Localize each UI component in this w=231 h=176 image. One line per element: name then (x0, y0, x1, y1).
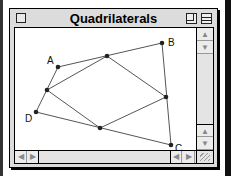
segment[interactable] (58, 43, 162, 67)
vertex-label: B (168, 37, 175, 48)
segment[interactable] (107, 56, 166, 97)
vertex-label: C (175, 143, 182, 150)
grow-box-icon[interactable] (196, 150, 213, 163)
quadrilaterals-window: Quadrilaterals ABCD ▲ ▼ ▲ ▼ ◀ ▶ ◀ ▶ (9, 8, 218, 168)
horizontal-scrollbar[interactable]: ◀ ▶ ◀ ▶ (15, 150, 196, 163)
point[interactable] (105, 54, 110, 59)
scroll-left-arrow-icon-right[interactable]: ◀ (170, 151, 182, 163)
point[interactable] (56, 65, 61, 70)
point[interactable] (164, 95, 169, 100)
scroll-down-arrow-icon-lower[interactable]: ▼ (197, 137, 213, 150)
segment[interactable] (47, 56, 107, 90)
scroll-down-arrow-icon[interactable]: ▼ (197, 41, 213, 54)
segment[interactable] (100, 97, 166, 128)
title-bar[interactable]: Quadrilaterals (10, 9, 217, 27)
quadrilateral-figure[interactable]: ABCD (15, 28, 196, 150)
segment[interactable] (36, 112, 171, 145)
point[interactable] (45, 88, 50, 93)
document-content: ABCD ▲ ▼ ▲ ▼ ◀ ▶ ◀ ▶ (14, 27, 214, 164)
zoom-box-icon[interactable] (186, 13, 197, 24)
vertex-label: A (47, 55, 54, 66)
vertical-scrollbar[interactable]: ▲ ▼ ▲ ▼ (196, 28, 213, 150)
collapse-box-icon[interactable] (201, 13, 212, 24)
point[interactable] (98, 126, 103, 131)
scroll-up-arrow-icon-lower[interactable]: ▲ (197, 124, 213, 137)
point[interactable] (160, 41, 165, 46)
point[interactable] (34, 110, 39, 115)
scroll-left-arrow-icon[interactable]: ◀ (15, 151, 27, 163)
sketch-canvas[interactable]: ABCD (15, 28, 196, 150)
scroll-right-arrow-icon-right[interactable]: ▶ (183, 151, 195, 163)
scroll-right-arrow-icon[interactable]: ▶ (27, 151, 39, 163)
scroll-up-arrow-icon[interactable]: ▲ (197, 28, 213, 41)
segment[interactable] (162, 43, 171, 145)
segment[interactable] (47, 90, 100, 128)
vertex-label: D (25, 113, 32, 124)
point[interactable] (169, 143, 174, 148)
